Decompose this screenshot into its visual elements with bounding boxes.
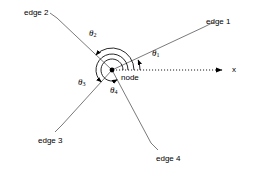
edge-4-label: edge 4 xyxy=(156,155,180,163)
x-axis-label: x xyxy=(232,66,236,74)
theta3-label: θ3 xyxy=(78,78,85,87)
edge-1-label: edge 1 xyxy=(206,18,230,26)
theta4-label: θ4 xyxy=(110,86,117,95)
edge-3-label: edge 3 xyxy=(38,137,62,145)
theta1-subscript: 1 xyxy=(156,52,159,58)
node-label: node xyxy=(121,74,139,82)
theta4-subscript: 4 xyxy=(114,89,117,95)
edge-2-label: edge 2 xyxy=(24,9,48,17)
angle-arc-theta1 xyxy=(138,60,140,70)
diagram-canvas xyxy=(0,0,256,178)
theta2-label: θ2 xyxy=(89,29,96,38)
theta2-subscript: 2 xyxy=(93,32,96,38)
edge-3-leader xyxy=(55,125,62,132)
theta3-subscript: 3 xyxy=(82,81,85,87)
theta1-label: θ1 xyxy=(152,49,159,58)
theta1-arc xyxy=(138,60,140,70)
angle-diagram-figure: edge 1 edge 2 edge 3 edge 4 node x θ1 θ2… xyxy=(0,0,256,178)
edge-2-leader xyxy=(50,13,57,18)
edge-4-leader xyxy=(151,143,158,150)
node-dot xyxy=(110,68,115,73)
